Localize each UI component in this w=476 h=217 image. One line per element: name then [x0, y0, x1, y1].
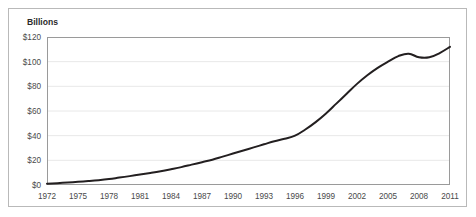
y-axis-tick-labels: $0$20$40$60$80$100$120: [23, 33, 42, 190]
y-axis-tick-label: $60: [27, 107, 41, 116]
chart-figure: $0$20$40$60$80$100$120197219751978198119…: [0, 0, 476, 217]
x-axis-tick-label: 1996: [286, 192, 305, 201]
unit-axis-title: Billions: [27, 17, 58, 27]
x-axis-tick-label: 1981: [131, 192, 150, 201]
x-axis-tick-label: 1987: [193, 192, 212, 201]
x-axis-tick-labels: 1972197519781981198419871990199319961999…: [38, 192, 459, 201]
y-axis-tick-label: $0: [32, 181, 42, 190]
line-chart: $0$20$40$60$80$100$120197219751978198119…: [0, 0, 476, 217]
data-line-series: [47, 47, 450, 184]
x-axis-tick-label: 1993: [255, 192, 274, 201]
gridlines: [47, 62, 450, 161]
x-axis-tick-label: 1984: [162, 192, 181, 201]
x-axis-tick-label: 2011: [441, 192, 459, 201]
y-axis-tick-label: $40: [27, 132, 41, 141]
x-axis-tick-label: 2005: [379, 192, 398, 201]
x-axis-tick-label: 1990: [224, 192, 243, 201]
x-axis-tick-label: 1978: [100, 192, 119, 201]
x-axis-tick-label: 1999: [317, 192, 336, 201]
x-axis-tick-label: 2008: [410, 192, 429, 201]
y-axis-tick-label: $80: [27, 82, 41, 91]
y-axis-tick-label: $120: [23, 33, 42, 42]
x-axis-tick-label: 2002: [348, 192, 367, 201]
y-axis-tick-label: $20: [27, 156, 41, 165]
y-axis-tick-label: $100: [23, 58, 42, 67]
x-axis-tick-label: 1972: [38, 192, 57, 201]
x-axis-tick-label: 1975: [69, 192, 88, 201]
